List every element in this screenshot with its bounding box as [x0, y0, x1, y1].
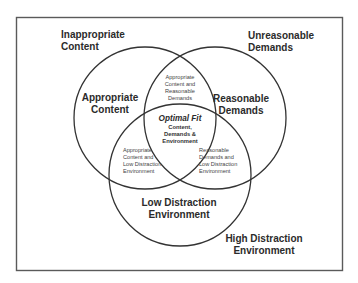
label-content-demands-intersection: Appropriate Content and Reasonable Deman… — [155, 74, 205, 103]
label-line: Low Distraction — [123, 161, 161, 168]
label-line: Unreasonable — [248, 30, 314, 42]
label-high-distraction-environment: High Distraction Environment — [219, 233, 309, 257]
label-appropriate-content: Appropriate Content — [70, 92, 150, 116]
label-reasonable-demands: Reasonable Demands — [201, 93, 281, 117]
label-line: Content and — [155, 81, 205, 88]
label-inappropriate-content: Inappropriate Content — [61, 29, 125, 53]
label-line: Environment — [199, 168, 237, 175]
label-line: Demands — [201, 105, 281, 117]
label-demands-environment-intersection: Reasonable Demands and Low Distraction E… — [199, 147, 237, 176]
label-line: Demands & — [150, 131, 210, 138]
label-unreasonable-demands: Unreasonable Demands — [248, 30, 314, 54]
label-line: Environment — [123, 168, 161, 175]
label-line: Reasonable — [199, 147, 237, 154]
optimal-fit-details: Content, Demands & Environment — [150, 124, 210, 146]
label-optimal-fit: Optimal Fit Content, Demands & Environme… — [150, 114, 210, 146]
label-line: Reasonable — [155, 88, 205, 95]
label-line: Environment — [134, 209, 224, 221]
label-line: Demands — [248, 42, 314, 54]
label-line: Appropriate — [70, 92, 150, 104]
label-line: Content — [70, 104, 150, 116]
label-line: Demands and — [199, 154, 237, 161]
label-line: Demands — [155, 95, 205, 102]
label-content-environment-intersection: Appropriate Content and Low Distraction … — [123, 147, 161, 176]
label-line: Low Distraction — [134, 197, 224, 209]
label-line: Content — [61, 41, 125, 53]
label-line: Appropriate — [123, 147, 161, 154]
label-line: Content and — [123, 154, 161, 161]
label-line: Inappropriate — [61, 29, 125, 41]
optimal-fit-title: Optimal Fit — [150, 114, 210, 124]
label-line: High Distraction — [219, 233, 309, 245]
label-low-distraction-environment: Low Distraction Environment — [134, 197, 224, 221]
label-line: Appropriate — [155, 74, 205, 81]
label-line: Environment — [219, 245, 309, 257]
label-line: Content, — [150, 124, 210, 131]
label-line: Reasonable — [201, 93, 281, 105]
label-line: Environment — [150, 138, 210, 145]
label-line: Low Distraction — [199, 161, 237, 168]
